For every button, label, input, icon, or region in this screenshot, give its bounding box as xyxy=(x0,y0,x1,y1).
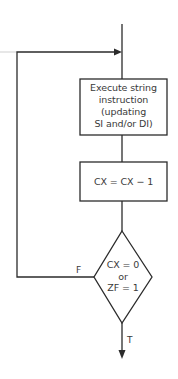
flowchart: Execute string instruction (updating SI … xyxy=(0,0,178,379)
loop-back-arrowhead-icon xyxy=(114,49,122,56)
decrement-cx-box xyxy=(80,162,167,201)
true-branch-label: T xyxy=(127,335,133,345)
execute-string-box xyxy=(80,79,167,135)
exit-arrowhead-icon xyxy=(119,350,126,359)
test-condition-diamond xyxy=(94,231,152,323)
false-branch-label: F xyxy=(76,265,81,275)
